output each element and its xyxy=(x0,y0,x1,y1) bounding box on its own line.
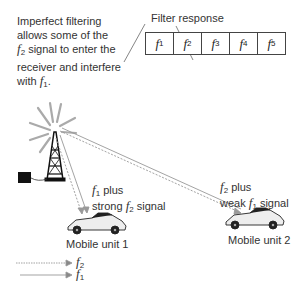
note-text: . xyxy=(48,75,51,87)
note-pointer-line xyxy=(124,24,145,62)
channel-cell: f2 xyxy=(173,32,202,55)
channel-cell: f4 xyxy=(229,32,258,55)
mobile-unit1-label: Mobile unit 1 xyxy=(66,238,128,250)
label-text: signal xyxy=(257,197,289,209)
label-line: weak f1 signal xyxy=(220,197,289,213)
channel-cell: f3 xyxy=(201,32,230,55)
unit2-signal-label: f2 plus weak f1 signal xyxy=(220,181,289,213)
subscript: 1 xyxy=(159,39,163,48)
legend-arrows xyxy=(16,260,72,278)
note-line: Imperfect filtering xyxy=(17,14,127,28)
base-station-icon xyxy=(18,172,31,183)
note-text: with xyxy=(17,75,40,87)
label-line: f2 plus xyxy=(220,181,289,197)
label-text: strong xyxy=(92,200,126,212)
note-line: receiver and interfere xyxy=(17,60,127,74)
label-line: strong f2 signal xyxy=(92,200,166,216)
subscript: 3 xyxy=(215,39,219,48)
mobile-unit2-label: Mobile unit 2 xyxy=(228,234,290,246)
filter-channel-bank: f1 f2 f3 f4 f5 xyxy=(146,32,286,55)
legend-f1: f1 xyxy=(76,268,84,284)
label-text: plus xyxy=(100,184,123,196)
note-text: signal to enter the xyxy=(25,43,116,55)
subscript: 5 xyxy=(271,39,275,48)
channel-cell: f1 xyxy=(145,32,174,55)
label-text: weak xyxy=(220,197,249,209)
note-line: with f1. xyxy=(17,74,127,92)
label-text: plus xyxy=(228,181,251,193)
note-line: allows some of the xyxy=(17,28,127,42)
antenna-rays-icon xyxy=(30,103,76,152)
note-line: f2 signal to enter the xyxy=(17,42,127,60)
subscript: 1 xyxy=(80,273,84,282)
filter-response-label: Filter response xyxy=(151,12,224,24)
subscript: 2 xyxy=(187,39,191,48)
subscript: 4 xyxy=(243,39,247,48)
label-text: signal xyxy=(134,200,166,212)
filtering-note: Imperfect filtering allows some of the f… xyxy=(17,14,127,92)
car-icon-unit1 xyxy=(68,213,126,234)
channel-cell: f5 xyxy=(257,32,286,55)
unit1-signal-label: f1 plus strong f2 signal xyxy=(92,184,166,216)
